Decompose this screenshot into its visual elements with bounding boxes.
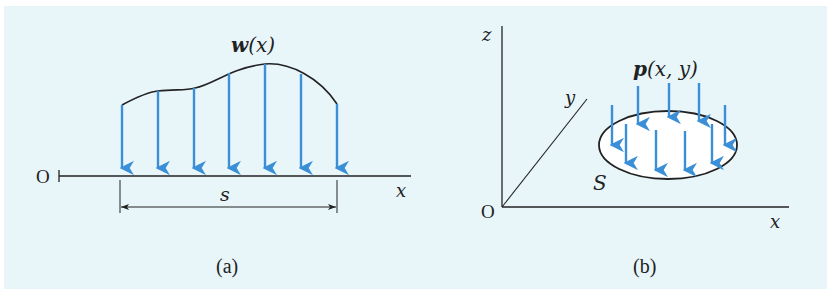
distributed-load-arrows bbox=[122, 64, 337, 168]
z-axis-label: z bbox=[481, 24, 492, 45]
load-label: w(x) bbox=[231, 33, 275, 57]
figure-canvas: O x w(x) s (a) z y x O bbox=[0, 0, 831, 300]
caption-b: (b) bbox=[633, 255, 656, 278]
caption-a: (a) bbox=[216, 255, 238, 278]
origin-label: O bbox=[36, 166, 50, 187]
panel-b: z y x O S p(x, y) (b) bbox=[481, 24, 789, 278]
surface-region bbox=[599, 111, 737, 179]
y-axis-label: y bbox=[564, 87, 576, 108]
y-axis-line bbox=[502, 99, 587, 207]
origin-label: O bbox=[481, 201, 495, 222]
span-label: s bbox=[220, 183, 230, 205]
x-axis-label: x bbox=[396, 180, 406, 201]
surface-label: S bbox=[593, 171, 607, 195]
panel-a: O x w(x) s (a) bbox=[36, 33, 411, 278]
load-label: p(x, y) bbox=[633, 57, 698, 81]
x-axis-label: x bbox=[770, 211, 780, 232]
